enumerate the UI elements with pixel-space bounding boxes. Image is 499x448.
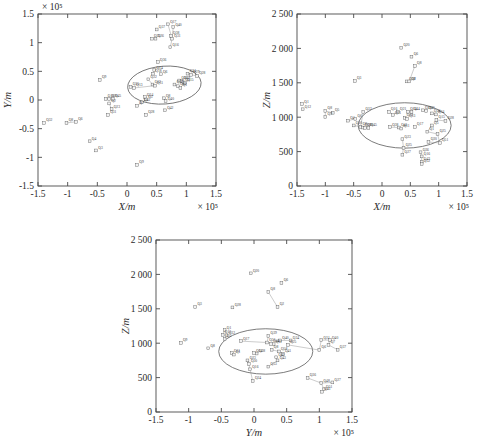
- data-point-marker[interactable]: [164, 100, 167, 103]
- data-point-marker[interactable]: [162, 97, 165, 100]
- data-point-marker[interactable]: [240, 340, 243, 343]
- data-point-marker[interactable]: [88, 140, 91, 143]
- data-point-marker[interactable]: [276, 306, 279, 309]
- data-point-marker[interactable]: [104, 97, 107, 100]
- data-point-marker[interactable]: [400, 46, 403, 49]
- data-point-marker[interactable]: [207, 347, 210, 350]
- data-point-marker[interactable]: [186, 72, 189, 75]
- data-point-marker[interactable]: [410, 55, 413, 58]
- data-point-marker[interactable]: [280, 282, 283, 285]
- data-point-marker[interactable]: [421, 109, 424, 112]
- data-point-marker[interactable]: [108, 97, 111, 100]
- data-point-marker[interactable]: [364, 126, 367, 129]
- data-point-marker[interactable]: [408, 80, 411, 83]
- data-point-marker[interactable]: [324, 115, 327, 118]
- data-point-marker[interactable]: [173, 83, 176, 86]
- data-point-marker[interactable]: [401, 153, 404, 156]
- data-point-marker[interactable]: [267, 365, 270, 368]
- data-point-marker[interactable]: [425, 110, 428, 113]
- data-point-marker[interactable]: [255, 352, 258, 355]
- data-point-marker[interactable]: [270, 342, 273, 345]
- data-point-marker[interactable]: [401, 138, 404, 141]
- data-point-marker[interactable]: [153, 84, 156, 87]
- data-point-marker[interactable]: [444, 120, 447, 123]
- data-point-marker[interactable]: [420, 155, 423, 158]
- data-point-marker[interactable]: [367, 126, 370, 129]
- data-point-marker[interactable]: [159, 73, 162, 76]
- data-point-marker[interactable]: [136, 104, 139, 107]
- data-point-marker[interactable]: [406, 118, 409, 121]
- data-point-marker[interactable]: [324, 110, 327, 113]
- data-point-marker[interactable]: [270, 348, 273, 351]
- data-point-marker[interactable]: [65, 122, 68, 125]
- data-point-marker[interactable]: [301, 108, 304, 111]
- data-point-marker[interactable]: [179, 87, 182, 90]
- data-point-marker[interactable]: [419, 151, 422, 154]
- data-point-marker[interactable]: [190, 73, 193, 76]
- data-point-marker[interactable]: [171, 37, 174, 40]
- data-point-marker[interactable]: [267, 291, 270, 294]
- data-point-marker[interactable]: [301, 103, 304, 106]
- data-point-marker[interactable]: [253, 352, 256, 355]
- data-point-marker[interactable]: [347, 119, 350, 122]
- data-point-marker[interactable]: [155, 28, 158, 31]
- data-point-marker[interactable]: [43, 122, 46, 125]
- data-point-marker[interactable]: [266, 341, 269, 344]
- data-point-marker[interactable]: [156, 61, 159, 64]
- data-point-marker[interactable]: [147, 78, 150, 81]
- data-point-marker[interactable]: [246, 359, 249, 362]
- data-point-marker[interactable]: [430, 112, 433, 115]
- data-point-marker[interactable]: [75, 120, 78, 123]
- data-point-marker[interactable]: [169, 46, 172, 49]
- data-point-marker[interactable]: [133, 87, 136, 90]
- data-point-marker[interactable]: [436, 133, 439, 136]
- data-point-marker[interactable]: [402, 146, 405, 149]
- data-point-marker[interactable]: [164, 109, 167, 112]
- data-point-marker[interactable]: [327, 344, 330, 347]
- data-point-marker[interactable]: [98, 79, 101, 82]
- data-point-marker[interactable]: [391, 114, 394, 117]
- data-point-marker[interactable]: [353, 80, 356, 83]
- data-point-marker[interactable]: [151, 37, 154, 40]
- data-point-marker[interactable]: [172, 26, 175, 29]
- data-point-marker[interactable]: [170, 34, 173, 37]
- data-point-marker[interactable]: [249, 272, 252, 275]
- data-point-marker[interactable]: [352, 124, 355, 127]
- data-point-marker[interactable]: [413, 125, 416, 128]
- data-point-marker[interactable]: [129, 85, 132, 88]
- data-point-marker[interactable]: [136, 163, 139, 166]
- data-point-marker[interactable]: [306, 377, 309, 380]
- data-point-marker[interactable]: [389, 126, 392, 129]
- data-point-marker[interactable]: [318, 349, 321, 352]
- data-point-marker[interactable]: [320, 382, 323, 385]
- data-point-marker[interactable]: [320, 339, 323, 342]
- data-point-marker[interactable]: [196, 75, 199, 78]
- data-point-marker[interactable]: [247, 362, 250, 365]
- data-point-marker[interactable]: [251, 380, 254, 383]
- data-point-marker[interactable]: [231, 306, 234, 309]
- data-point-marker[interactable]: [438, 142, 441, 145]
- data-point-marker[interactable]: [107, 114, 110, 117]
- data-point-marker[interactable]: [420, 163, 423, 166]
- data-point-marker[interactable]: [179, 341, 182, 344]
- data-point-marker[interactable]: [413, 65, 416, 68]
- data-point-marker[interactable]: [145, 114, 148, 117]
- data-point-marker[interactable]: [336, 348, 339, 351]
- data-point-marker[interactable]: [275, 356, 278, 359]
- data-point-marker[interactable]: [387, 111, 390, 114]
- data-point-marker[interactable]: [194, 306, 197, 309]
- data-point-marker[interactable]: [154, 37, 157, 40]
- data-point-marker[interactable]: [331, 381, 334, 384]
- data-point-marker[interactable]: [167, 23, 170, 26]
- data-point-marker[interactable]: [249, 368, 252, 371]
- data-point-marker[interactable]: [362, 111, 365, 114]
- data-point-marker[interactable]: [426, 130, 429, 133]
- data-point-marker[interactable]: [221, 334, 224, 337]
- data-point-marker[interactable]: [434, 113, 437, 116]
- data-point-marker[interactable]: [232, 353, 235, 356]
- data-point-marker[interactable]: [223, 338, 226, 341]
- data-point-marker[interactable]: [321, 390, 324, 393]
- data-point-marker[interactable]: [400, 127, 403, 130]
- data-point-marker[interactable]: [95, 149, 98, 152]
- data-point-marker[interactable]: [108, 102, 111, 105]
